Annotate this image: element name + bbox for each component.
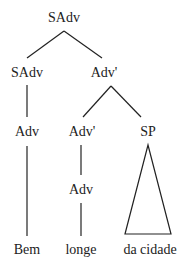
node-adv-bar-inner: Adv' <box>69 124 96 140</box>
leaf-longe: longe <box>65 242 96 258</box>
node-sadv: SAdv <box>11 65 43 81</box>
node-adv-bar: Adv' <box>91 65 118 81</box>
sp-triangle <box>125 145 171 234</box>
node-adv-mid: Adv <box>69 182 93 198</box>
syntax-tree: SAdv SAdv Adv' Adv Adv' SP Adv Bem longe… <box>0 0 187 269</box>
edge-adv-bar-to-sp <box>111 86 141 117</box>
edge-root-to-adv-bar <box>64 31 102 58</box>
edge-root-to-sadv <box>27 31 64 58</box>
edge-adv-bar-to-adv-bar-inner <box>83 86 111 117</box>
node-adv: Adv <box>15 124 39 140</box>
node-root-sadv: SAdv <box>48 10 80 26</box>
leaf-bem: Bem <box>14 242 40 258</box>
leaf-da-cidade: da cidade <box>123 242 176 258</box>
node-sp: SP <box>140 124 156 140</box>
